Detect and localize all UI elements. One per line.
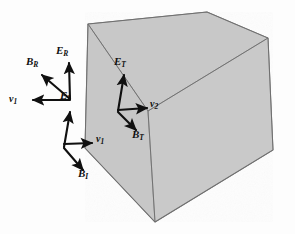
label-E-transmitted: ET — [114, 56, 126, 67]
label-B-incident: BI — [78, 168, 88, 179]
label-v1-reflected: v1 — [9, 94, 17, 104]
label-E-incident: EI — [60, 90, 70, 101]
dielectric-cube — [85, 12, 273, 222]
label-B-reflected: BR — [26, 56, 38, 67]
label-B-transmitted: BT — [132, 129, 144, 140]
v1-incident-vector — [64, 143, 92, 144]
label-v2-transmitted: v2 — [150, 99, 158, 109]
label-v1-incident: v1 — [96, 134, 104, 144]
E-incident-vector — [64, 112, 70, 147]
cube-texture — [85, 12, 273, 222]
diagram-canvas — [0, 0, 295, 234]
physics-vector-diagram: ER BR v1 EI v1 BI ET v2 BT — [0, 0, 295, 234]
label-E-reflected: ER — [56, 45, 68, 56]
